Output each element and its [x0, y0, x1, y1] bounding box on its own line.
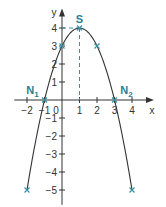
point-label-n1: N1 [26, 84, 39, 99]
x-tick-label: 1 [77, 105, 83, 116]
point-label-main: N [120, 84, 128, 96]
x-axis-arrow [146, 97, 154, 103]
labels: xy−2−101234−5−4−3−2−11234N1SN2 [21, 7, 154, 196]
x-tick-label: 2 [94, 105, 100, 116]
x-axis-label: x [150, 105, 155, 116]
y-tick-label: −3 [46, 149, 58, 160]
point-label-main: S [76, 13, 83, 25]
y-axis-arrow [59, 9, 65, 17]
point-label-s: S [76, 13, 83, 25]
point-label-subscript: 1 [34, 90, 39, 99]
y-tick-label: −4 [46, 167, 58, 178]
x-tick-label: −2 [21, 105, 33, 116]
y-tick-label: 2 [51, 59, 57, 70]
y-tick-label: −1 [46, 113, 58, 124]
y-tick-label: −2 [46, 131, 58, 142]
y-tick-label: −5 [46, 185, 58, 196]
y-axis-label: y [52, 7, 57, 18]
point-label-n2: N2 [120, 84, 133, 99]
parabola-chart: xy−2−101234−5−4−3−2−11234N1SN2 [0, 0, 166, 207]
y-tick-label: 4 [51, 23, 57, 34]
point-marker [95, 44, 100, 49]
point-label-main: N [26, 84, 34, 96]
x-tick-label: 3 [112, 105, 118, 116]
x-tick-label: 4 [129, 105, 135, 116]
point-label-subscript: 2 [128, 90, 133, 99]
y-tick-label: 3 [51, 41, 57, 52]
y-tick-label: 1 [51, 77, 57, 88]
